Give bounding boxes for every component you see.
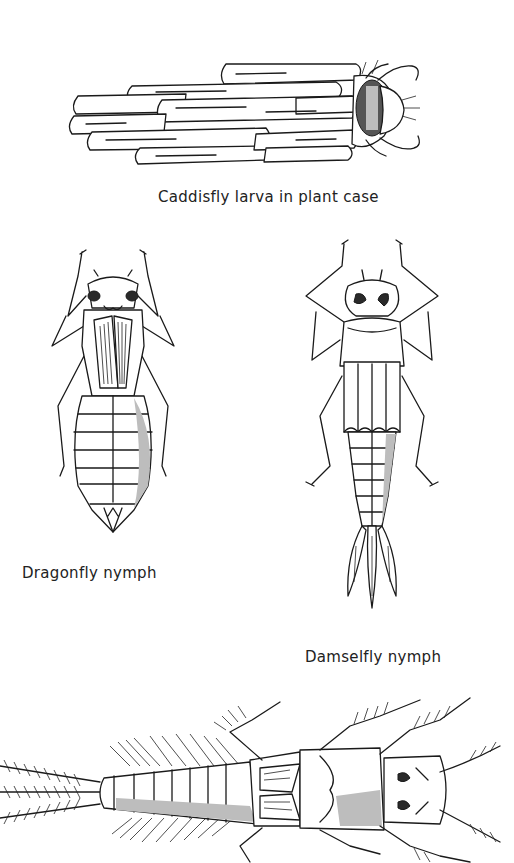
caddisfly-larva-icon [66,56,432,168]
stonefly-nymph-icon [0,686,514,863]
dragonfly-illustration [38,246,188,536]
stonefly-illustration [0,686,514,863]
caddisfly-caption: Caddisfly larva in plant case [158,188,379,206]
damselfly-illustration [292,236,452,616]
damselfly-caption: Damselfly nymph [305,648,441,666]
damselfly-nymph-icon [292,236,452,616]
dragonfly-nymph-icon [38,246,188,536]
dragonfly-caption: Dragonfly nymph [22,564,157,582]
caddisfly-illustration [66,56,432,168]
